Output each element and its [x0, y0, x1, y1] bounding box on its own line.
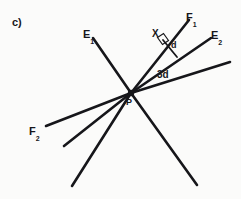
ray-label-e1: E1 [83, 25, 94, 43]
ray-label-f1: F1 [186, 8, 197, 26]
ray-label-e2: E2 [211, 26, 222, 44]
geometry-figure: c) E1 F1 E2 F2 X d 3d P [0, 0, 241, 199]
ray-label-f1-subscript: 1 [193, 21, 197, 28]
ray-label-f2: F2 [29, 122, 40, 140]
ray-e1 [93, 38, 131, 93]
vertex-point-p [128, 90, 134, 96]
ray-label-f2-subscript: 2 [36, 135, 40, 142]
ray-lower-right-upper [131, 62, 230, 93]
ray-f1 [131, 20, 189, 93]
ray-lower-left-mid [64, 93, 131, 146]
distance-label-d: d [171, 41, 177, 50]
ray-label-f2-base: F [29, 125, 36, 137]
right-angle-mark [158, 34, 169, 45]
vertex-label-p: P [126, 98, 132, 107]
ray-label-e1-subscript: 1 [90, 38, 94, 45]
ray-label-e2-subscript: 2 [218, 39, 222, 46]
ray-lower-right-steep [131, 93, 197, 185]
figure-canvas [0, 0, 241, 199]
distance-label-3d: 3d [157, 70, 169, 80]
ray-label-f1-base: F [186, 11, 193, 23]
ray-f2 [46, 93, 131, 126]
point-label-x: X [152, 29, 159, 39]
part-label: c) [12, 17, 22, 28]
ray-lower-left-steep [72, 93, 131, 186]
